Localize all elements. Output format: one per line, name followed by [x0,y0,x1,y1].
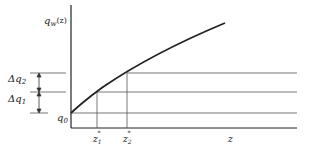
x-axis-label: z [227,134,233,144]
z1-label: z1* [92,129,102,145]
q0-label: q0 [57,112,68,125]
delta-q1-arrow [37,92,41,113]
qw-curve [71,23,225,113]
heat-flux-diagram: qw(z) Δq2 Δq1 q0 z1* z2* z [0,0,309,149]
delta-q2-label: Δq2 [7,73,27,86]
z2-label: z2* [122,129,132,145]
y-axis-label: qw(z) [44,15,67,28]
delta-q1-label: Δq1 [7,93,26,106]
delta-q2-arrow [37,73,41,92]
